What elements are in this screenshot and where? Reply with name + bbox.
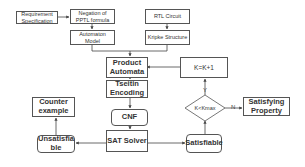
no-label: N: [231, 104, 235, 110]
k-increment-box: K=K+1: [180, 57, 228, 78]
cnf-box: CNF: [111, 109, 148, 126]
requirement-specification-box: Requirement Specification: [16, 11, 58, 24]
sat-solver-box: SAT Solver: [106, 130, 148, 152]
satisfiable-box: Satisfiable: [186, 134, 222, 153]
kripke-structure-box: Kripke Structure: [145, 30, 190, 45]
tseitin-encoding-box: Tseitin Encoding: [106, 80, 148, 98]
yes-label: Y: [203, 87, 207, 93]
satisfying-property-box: Satisfying Property: [243, 97, 290, 116]
product-automata-box: Product Automata: [106, 57, 148, 78]
unsatisfiable-box: Unsatisfiable: [37, 135, 75, 153]
negation-pptl-box: Negation of PPTL formula: [70, 9, 115, 24]
automaton-model-box: Automaton Model: [70, 30, 115, 45]
rtl-circuit-box: RTL Circuit: [145, 9, 190, 24]
counter-example-box: Counter example: [32, 97, 75, 117]
decision-label: K<Kmax: [190, 105, 220, 111]
